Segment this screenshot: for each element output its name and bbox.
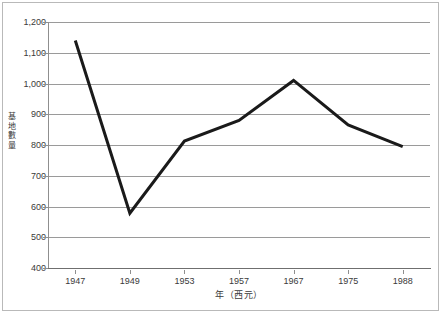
x-tick-mark-1957 xyxy=(239,270,240,274)
y-tick-mark-900 xyxy=(43,114,48,115)
y-tick-mark-1100 xyxy=(43,53,48,54)
gridline-500 xyxy=(48,237,430,238)
gridline-1200 xyxy=(48,22,430,23)
x-tick-label-1957: 1957 xyxy=(229,276,249,286)
y-axis-spine xyxy=(48,22,49,269)
x-tick-mark-1949 xyxy=(130,270,131,274)
y-tick-label-600: 600 xyxy=(2,202,46,212)
x-axis-ticks: 1947194919531957196719751988 xyxy=(48,270,430,290)
plot-area xyxy=(48,22,430,268)
y-tick-label-1000: 1,000 xyxy=(2,79,46,89)
y-tick-mark-1000 xyxy=(43,84,48,85)
x-axis-spine xyxy=(48,268,431,269)
gridline-700 xyxy=(48,176,430,177)
x-tick-label-1967: 1967 xyxy=(284,276,304,286)
x-tick-mark-1967 xyxy=(294,270,295,274)
x-tick-label-1949: 1949 xyxy=(120,276,140,286)
x-tick-label-1947: 1947 xyxy=(65,276,85,286)
y-tick-mark-1200 xyxy=(43,22,48,23)
y-tick-mark-700 xyxy=(43,176,48,177)
x-tick-label-1988: 1988 xyxy=(393,276,413,286)
gridline-1100 xyxy=(48,53,430,54)
y-tick-mark-600 xyxy=(43,207,48,208)
y-tick-mark-500 xyxy=(43,237,48,238)
y-tick-mark-400 xyxy=(43,268,48,269)
x-tick-label-1953: 1953 xyxy=(174,276,194,286)
y-axis-title: 基地數量 xyxy=(6,112,18,150)
y-tick-label-1200: 1,200 xyxy=(2,17,46,27)
chart-figure: 4005006007008009001,0001,1001,200 194719… xyxy=(0,0,441,313)
y-tick-label-400: 400 xyxy=(2,263,46,273)
y-tick-mark-800 xyxy=(43,145,48,146)
gridline-800 xyxy=(48,145,430,146)
y-tick-label-1100: 1,100 xyxy=(2,48,46,58)
y-tick-label-500: 500 xyxy=(2,232,46,242)
y-tick-label-700: 700 xyxy=(2,171,46,181)
x-tick-mark-1953 xyxy=(184,270,185,274)
gridline-600 xyxy=(48,207,430,208)
x-tick-mark-1947 xyxy=(75,270,76,274)
x-tick-mark-1975 xyxy=(348,270,349,274)
x-tick-mark-1988 xyxy=(403,270,404,274)
gridline-1000 xyxy=(48,84,430,85)
x-axis-title: 年（西元） xyxy=(48,288,430,301)
x-tick-label-1975: 1975 xyxy=(338,276,358,286)
gridline-900 xyxy=(48,114,430,115)
